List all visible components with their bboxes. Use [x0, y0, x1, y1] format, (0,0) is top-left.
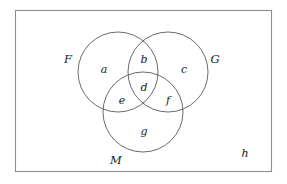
region-label-h: h — [241, 147, 248, 160]
region-label-a: a — [101, 63, 108, 76]
region-label-g: g — [140, 125, 147, 138]
set-label-F: F — [63, 52, 73, 66]
venn-diagram-canvas: F G M a b c d e f g h — [0, 0, 287, 184]
set-label-G: G — [210, 52, 219, 66]
region-label-e: e — [119, 94, 126, 107]
region-label-b: b — [140, 53, 147, 66]
region-label-c: c — [181, 63, 187, 76]
set-label-M: M — [109, 153, 123, 167]
venn-diagram-figure: F G M a b c d e f g h — [0, 0, 287, 184]
region-label-d: d — [140, 81, 147, 94]
